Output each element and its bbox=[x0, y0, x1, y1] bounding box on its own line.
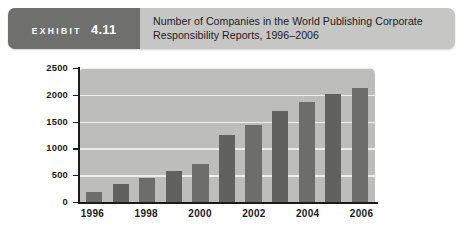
y-axis-line bbox=[78, 67, 80, 203]
bar-2003 bbox=[272, 111, 288, 202]
bar-2005 bbox=[325, 94, 341, 202]
bar-1999 bbox=[166, 171, 182, 202]
y-tick-label: 1500 bbox=[22, 116, 68, 127]
y-tick-label-wrap: 2500 bbox=[22, 62, 68, 74]
bar-slot bbox=[267, 68, 294, 202]
y-tick-label: 1000 bbox=[22, 142, 68, 153]
y-tick-label: 500 bbox=[22, 169, 68, 180]
exhibit-title: Number of Companies in the World Publish… bbox=[153, 14, 449, 43]
bar-2001 bbox=[219, 135, 235, 202]
bar-chart: 05001000150020002500 1996199820002002200… bbox=[0, 56, 476, 232]
exhibit-tag: EXHIBIT 4.11 bbox=[8, 8, 140, 49]
y-tick-label-wrap: 500 bbox=[22, 169, 68, 181]
y-tick-mark bbox=[73, 175, 78, 176]
bar-slot bbox=[320, 68, 347, 202]
bar-1997 bbox=[113, 184, 129, 202]
bar-slot bbox=[81, 68, 108, 202]
bar-slot bbox=[346, 68, 373, 202]
bar-1996 bbox=[86, 192, 102, 202]
bar-slot bbox=[161, 68, 188, 202]
y-tick-label: 0 bbox=[22, 196, 68, 207]
x-tick-label-1998: 1998 bbox=[123, 208, 169, 219]
x-tick-label-2000: 2000 bbox=[177, 208, 223, 219]
bar-slot bbox=[293, 68, 320, 202]
x-tick-label-2006: 2006 bbox=[339, 208, 385, 219]
x-tick-label-1996: 1996 bbox=[69, 208, 115, 219]
x-tick-label-2002: 2002 bbox=[231, 208, 277, 219]
y-tick-mark bbox=[73, 122, 78, 123]
bar-2000 bbox=[192, 164, 208, 202]
exhibit-tag-inner: EXHIBIT 4.11 bbox=[32, 22, 117, 37]
y-tick-mark bbox=[73, 68, 78, 69]
bar-slot bbox=[108, 68, 135, 202]
y-tick-label: 2500 bbox=[22, 62, 68, 73]
bar-1998 bbox=[139, 178, 155, 202]
bar-slot bbox=[187, 68, 214, 202]
bar-2002 bbox=[245, 125, 261, 202]
y-tick-mark bbox=[73, 95, 78, 96]
exhibit-number: 4.11 bbox=[91, 22, 116, 37]
y-tick-mark bbox=[73, 148, 78, 149]
y-tick-label-wrap: 1500 bbox=[22, 116, 68, 128]
exhibit-header-band: EXHIBIT 4.11 Number of Companies in the … bbox=[8, 8, 455, 49]
bar-2006 bbox=[352, 88, 368, 202]
bars-layer bbox=[79, 68, 375, 202]
bar-2004 bbox=[299, 102, 315, 202]
y-tick-label-wrap: 1000 bbox=[22, 142, 68, 154]
x-axis-line bbox=[78, 202, 378, 204]
y-tick-mark bbox=[73, 202, 78, 203]
exhibit-label: EXHIBIT bbox=[32, 26, 82, 36]
bar-slot bbox=[134, 68, 161, 202]
y-tick-label: 2000 bbox=[22, 89, 68, 100]
bar-slot bbox=[240, 68, 267, 202]
y-tick-label-wrap: 0 bbox=[22, 196, 68, 208]
bar-slot bbox=[214, 68, 241, 202]
y-tick-label-wrap: 2000 bbox=[22, 89, 68, 101]
x-tick-label-2004: 2004 bbox=[285, 208, 331, 219]
